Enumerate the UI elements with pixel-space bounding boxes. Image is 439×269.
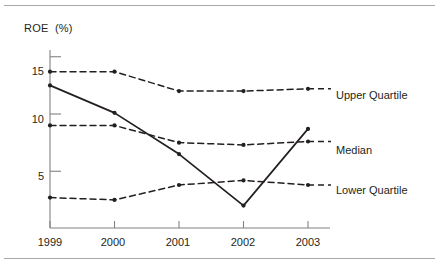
data-point (48, 83, 52, 87)
data-point (177, 183, 181, 187)
data-point (48, 195, 52, 199)
data-point (112, 111, 116, 115)
series-company (48, 83, 310, 207)
data-point (241, 204, 245, 208)
x-axis-ticks (50, 221, 308, 228)
data-point (241, 178, 245, 182)
y-axis-ticks (50, 57, 61, 172)
series-median (48, 123, 310, 147)
data-point (241, 143, 245, 147)
data-point (112, 198, 116, 202)
line-chart-plot (0, 0, 439, 269)
chart-series-layer (48, 70, 310, 208)
series-line (50, 72, 308, 91)
data-point (241, 89, 245, 93)
series-lower-quartile (48, 178, 310, 202)
data-point (112, 70, 116, 74)
data-point (306, 127, 310, 131)
legend-connector-lines (308, 89, 331, 185)
data-point (177, 89, 181, 93)
series-upper-quartile (48, 70, 310, 94)
data-point (177, 141, 181, 145)
figure: ROE (%) 15 10 5 1999 2000 2001 2002 2003… (0, 0, 439, 269)
data-point (177, 152, 181, 156)
series-line (50, 85, 308, 205)
chart-axes (50, 50, 330, 228)
data-point (48, 123, 52, 127)
data-point (112, 123, 116, 127)
data-point (48, 70, 52, 74)
